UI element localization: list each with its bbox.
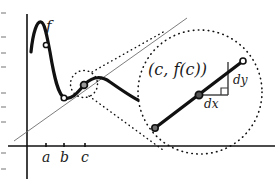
tick-label-c: c <box>81 150 89 164</box>
scan-artifact-mark <box>1 106 6 108</box>
scan-artifact-mark <box>1 12 6 14</box>
tick-label-b: b <box>60 150 69 164</box>
right-angle-marker <box>221 88 228 95</box>
function-label: f <box>46 19 52 34</box>
point-at-c <box>81 82 88 89</box>
scan-artifact-mark <box>1 152 6 154</box>
tangent-upper-endpoint <box>240 58 246 64</box>
point-at-a <box>43 42 48 47</box>
point-c-magnified <box>195 91 202 98</box>
dx-label: dx <box>204 98 218 110</box>
scan-artifact-mark <box>1 36 6 38</box>
point-at-b <box>61 95 67 101</box>
scan-artifact-mark <box>1 66 6 68</box>
tick-label-a: a <box>42 150 50 164</box>
dy-label: dy <box>233 74 247 86</box>
magnifier-cone-lower <box>89 96 163 150</box>
calculus-figure: f a b c (c, f(c)) dx dy <box>0 0 275 183</box>
scan-artifact-mark <box>1 92 6 94</box>
tangent-lower-endpoint <box>152 125 158 131</box>
scan-artifact-mark <box>1 52 6 54</box>
scan-artifact-mark <box>1 121 6 123</box>
scan-artifact-mark <box>1 168 6 170</box>
point-c-label: (c, f(c)) <box>148 62 207 78</box>
